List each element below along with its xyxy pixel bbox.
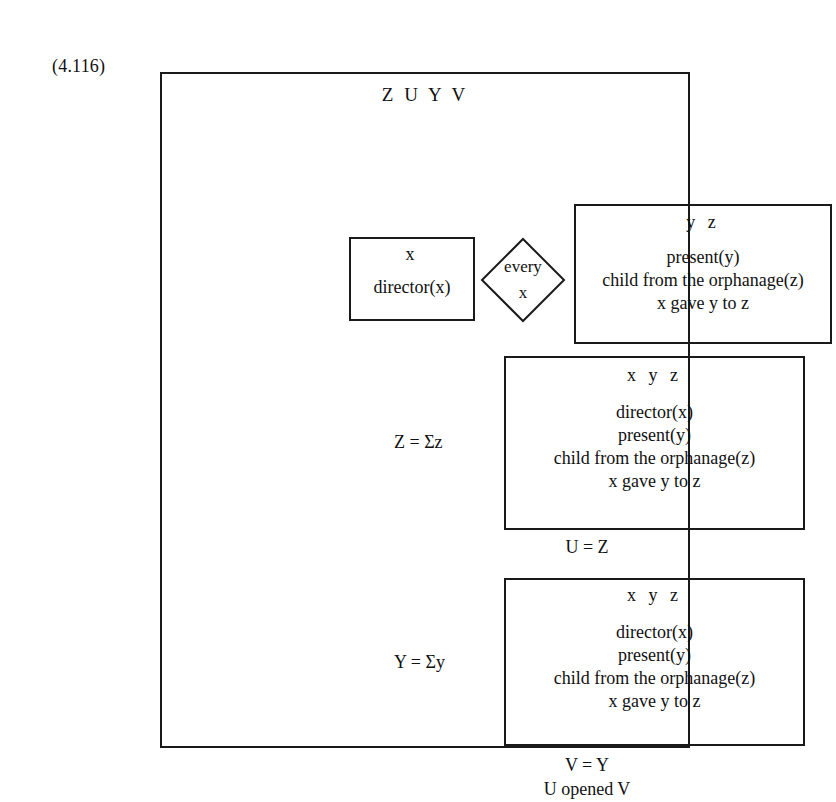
condition-line: director(x) [506, 401, 803, 424]
quantifier-diamond: every x [480, 237, 566, 323]
consequent-drs-box: y z present(y) child from the orphanage(… [574, 204, 832, 344]
sum-z-conditions: director(x) present(y) child from the or… [506, 387, 803, 493]
outer-drs-universe: Z U Y V [162, 84, 688, 106]
condition-line: x gave y to z [506, 690, 803, 713]
antecedent-universe: x [351, 239, 473, 266]
sum-drs-box-z: x y z director(x) present(y) child from … [504, 356, 805, 530]
condition-line: present(y) [506, 644, 803, 667]
abstraction-label-z: Z = Σz [394, 432, 443, 453]
quantifier-text: every x [480, 237, 566, 323]
condition-line: director(x) [351, 276, 473, 299]
equation-number: (4.116) [52, 56, 105, 77]
condition-u-opened-v: U opened V [322, 777, 836, 801]
condition-line: present(y) [506, 424, 803, 447]
condition-line: x gave y to z [576, 292, 830, 315]
sum-y-conditions: director(x) present(y) child from the or… [506, 607, 803, 713]
antecedent-drs-box: x director(x) [349, 237, 475, 321]
condition-line: present(y) [576, 246, 830, 269]
sum-y-universe: x y z [506, 580, 803, 607]
condition-v-equals-y: V = Y [322, 753, 836, 777]
condition-line: child from the orphanage(z) [506, 447, 803, 470]
outer-drs-conditions: V = Y U opened V [322, 753, 836, 802]
quantifier-word: every [504, 254, 542, 280]
abstraction-label-y: Y = Σy [394, 652, 445, 673]
condition-u-equals-z: U = Z [322, 537, 836, 558]
outer-drs-box: Z U Y V x director(x) every x y z presen… [160, 72, 690, 748]
condition-line: child from the orphanage(z) [576, 269, 830, 292]
condition-line: director(x) [506, 621, 803, 644]
antecedent-conditions: director(x) [351, 266, 473, 299]
consequent-universe: y z [576, 206, 830, 234]
sum-drs-box-y: x y z director(x) present(y) child from … [504, 578, 805, 746]
sum-z-universe: x y z [506, 358, 803, 387]
quantifier-variable: x [519, 280, 528, 306]
consequent-conditions: present(y) child from the orphanage(z) x… [576, 234, 830, 315]
condition-line: x gave y to z [506, 470, 803, 493]
condition-line: child from the orphanage(z) [506, 667, 803, 690]
